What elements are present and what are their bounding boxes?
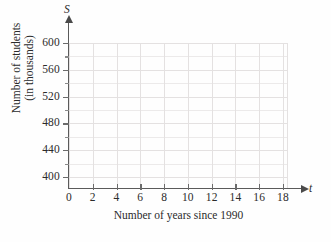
gridline-vertical (164, 43, 165, 188)
gridline-horizontal (69, 137, 288, 138)
y-axis-title-line-2: (in thousands) (23, 0, 36, 143)
gridline-horizontal (69, 110, 288, 111)
y-axis-title-line-1: Number of students (10, 23, 22, 114)
y-axis-tick (63, 70, 69, 71)
x-axis-tick-label: 18 (268, 192, 298, 204)
x-axis-tick (235, 184, 236, 190)
x-axis-arrow-icon (301, 185, 309, 193)
x-axis-tick (117, 184, 118, 190)
y-axis-tick (63, 97, 69, 98)
gridline-vertical (235, 43, 236, 188)
gridline-horizontal (69, 83, 288, 84)
gridline-horizontal (69, 70, 288, 71)
gridline-horizontal (69, 56, 288, 57)
gridline-horizontal (69, 97, 288, 98)
plot-area (69, 43, 288, 188)
y-axis-minor-tick (65, 137, 70, 138)
x-axis-variable-label: t (309, 182, 312, 194)
y-axis-tick (63, 123, 69, 124)
y-axis-minor-tick (65, 56, 70, 57)
y-axis-tick-label: 440 (22, 144, 60, 156)
gridline-vertical (283, 43, 284, 188)
graph-figure: 400440480520560600 024681012141618 S t N… (0, 0, 331, 242)
gridline-horizontal (69, 150, 288, 151)
x-axis-title: Number of years since 1990 (69, 209, 288, 221)
x-axis-line (68, 188, 303, 189)
x-axis-tick (283, 184, 284, 190)
x-axis-tick (140, 184, 141, 190)
gridline-horizontal (69, 164, 288, 165)
gridline-horizontal (69, 177, 288, 178)
x-axis-tick (188, 184, 189, 190)
y-axis-tick (63, 150, 69, 151)
gridline-vertical (188, 43, 189, 188)
x-axis-tick (259, 184, 260, 190)
y-axis-minor-tick (65, 83, 70, 84)
gridline-vertical (259, 43, 260, 188)
y-axis-tick-label: 400 (22, 171, 60, 183)
gridline-vertical (140, 43, 141, 188)
gridline-vertical (117, 43, 118, 188)
y-axis-tick (63, 177, 69, 178)
y-axis-minor-tick (65, 110, 70, 111)
y-axis-tick (63, 43, 69, 44)
y-axis-arrow-icon (65, 15, 73, 23)
x-axis-tick (93, 184, 94, 190)
y-axis-minor-tick (65, 164, 70, 165)
x-axis-tick (164, 184, 165, 190)
x-axis-tick (212, 184, 213, 190)
y-axis-title: Number of students (in thousands) (10, 0, 36, 143)
gridline-vertical (93, 43, 94, 188)
y-axis-variable-label: S (64, 3, 70, 15)
gridline-vertical (212, 43, 213, 188)
gridline-horizontal (69, 43, 288, 44)
gridline-horizontal (69, 123, 288, 124)
gridline-vertical (287, 43, 288, 188)
